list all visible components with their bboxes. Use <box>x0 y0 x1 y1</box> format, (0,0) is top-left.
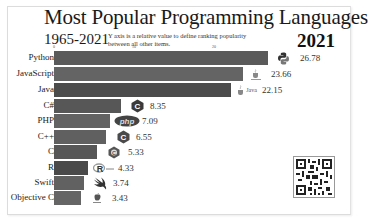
bar <box>54 83 231 97</box>
bar <box>54 114 110 128</box>
bar-label: JavaScript <box>17 68 55 78</box>
r-logo-icon: R <box>93 161 115 175</box>
axis-tick: 20 <box>212 44 216 49</box>
bar-value: 26.78 <box>300 53 320 63</box>
bar-row-cpp: C++ C 6.55 <box>0 130 356 144</box>
svg-text:C: C <box>134 102 140 111</box>
axis-tick: 0 <box>53 44 55 49</box>
bar-value: 22.15 <box>262 85 282 95</box>
svg-text:C: C <box>120 133 126 142</box>
bar-label: C++ <box>38 131 54 141</box>
bar <box>54 176 84 190</box>
php-logo-icon: php <box>114 114 140 128</box>
bar <box>54 99 121 113</box>
bar <box>54 161 88 175</box>
objective-c-logo-icon <box>91 191 103 205</box>
javascript-logo-icon <box>250 67 262 81</box>
axis-tick: 10 <box>132 44 136 49</box>
bar <box>54 130 106 144</box>
chart-title: Most Popular Programming Languages <box>44 5 368 30</box>
bar-value: 4.33 <box>118 163 134 173</box>
axis-note: Y axis is a relative value to define ran… <box>108 32 258 47</box>
bar-row-java: Java Java 22.15 <box>0 83 356 97</box>
bar <box>54 191 81 205</box>
bar-value: 7.09 <box>142 116 158 126</box>
bar-label: Swift <box>34 177 54 187</box>
bar-row-javascript: JavaScript 23.66 <box>0 67 356 81</box>
c-logo-icon: C <box>107 145 121 159</box>
bar-label: Java <box>38 84 54 94</box>
bar-row-php: PHP php 7.09 <box>0 114 356 128</box>
bar-row-csharp: C# C 8.35 <box>0 99 356 113</box>
swift-logo-icon <box>92 176 108 190</box>
bar-label: PHP <box>37 115 54 125</box>
bar-value: 23.66 <box>271 69 291 79</box>
java-logo-icon: Java <box>236 83 258 97</box>
svg-text:php: php <box>119 117 135 126</box>
bar-value: 5.33 <box>128 147 144 157</box>
bar-label: Objective C <box>11 192 54 202</box>
bar <box>54 51 268 65</box>
current-year-label: 2021 <box>297 30 335 52</box>
bar <box>54 67 243 81</box>
svg-text:C: C <box>112 149 116 155</box>
bar-value: 3.74 <box>113 178 129 188</box>
bar-row-python: Python 26.78 <box>0 51 356 65</box>
bar <box>54 145 97 159</box>
csharp-logo-icon: C <box>130 99 144 113</box>
python-logo-icon <box>276 51 290 65</box>
bar-value: 8.35 <box>150 101 166 111</box>
bar-label: Python <box>28 52 54 62</box>
bar-label: C# <box>43 100 54 110</box>
svg-text:R: R <box>97 164 104 174</box>
cpp-logo-icon: C <box>116 130 130 144</box>
bar-value: 3.43 <box>112 193 128 203</box>
bar-value: 6.55 <box>136 132 152 142</box>
qr-code <box>293 156 335 198</box>
